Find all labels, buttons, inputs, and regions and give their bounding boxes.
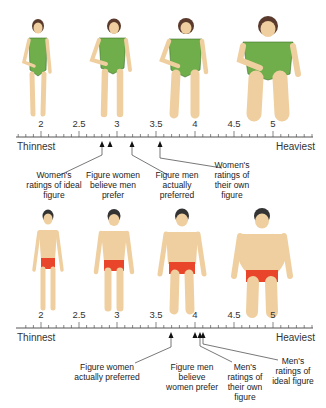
tick-label: 3 — [114, 309, 119, 320]
man-figure-2 — [96, 209, 132, 308]
woman-figure-4 — [240, 16, 298, 114]
women-panel: 2 2.5 3 3.5 4 4.5 5 Thinnest Heaviest Wo… — [0, 0, 326, 200]
man-figure-1 — [34, 210, 62, 309]
tick-label: 4 — [192, 118, 197, 129]
tick-label: 3.5 — [149, 309, 162, 320]
men-scale-axis — [16, 322, 313, 328]
annotation-label: Women's ratings of ideal figure — [24, 170, 84, 200]
tick-label: 4.5 — [227, 118, 240, 129]
tick-label: 3.5 — [149, 118, 162, 129]
tick-label: 5 — [270, 309, 275, 320]
tick-label: 2 — [38, 309, 43, 320]
tick-label: 2.5 — [72, 118, 85, 129]
tick-label: 5 — [270, 118, 275, 129]
tick-label: 4.5 — [227, 309, 240, 320]
tick-label: 2 — [38, 118, 43, 129]
heaviest-label: Heaviest — [276, 332, 315, 343]
woman-figure-1 — [24, 19, 50, 114]
annotation-label: Figure men actually preferred — [152, 170, 202, 200]
tick-label: 4 — [192, 309, 197, 320]
heaviest-label: Heaviest — [276, 141, 315, 152]
annotation-label: Figure men believe women prefer — [164, 362, 220, 392]
man-figure-4 — [234, 208, 290, 312]
thinnest-label: Thinnest — [17, 332, 55, 343]
woman-figure-3 — [162, 18, 206, 114]
tick-label: 2.5 — [72, 309, 85, 320]
annotation-label: Figure women believe men prefer — [84, 170, 142, 200]
annotation-label: Women's ratings of their own figure — [206, 160, 258, 200]
thinnest-label: Thinnest — [17, 141, 55, 152]
men-panel: 2 2.5 3 3.5 4 4.5 5 Thinnest Heaviest Fi… — [0, 200, 326, 408]
men-annotation-arrows — [135, 332, 278, 363]
tick-label: 3 — [114, 118, 119, 129]
women-scale-axis — [16, 131, 313, 137]
woman-figure-2 — [92, 19, 130, 115]
annotation-label: Men's ratings of their own figure — [225, 362, 265, 402]
annotation-label: Men's ratings of ideal figure — [270, 356, 316, 386]
man-figure-3 — [160, 209, 204, 311]
annotation-label: Figure women actually preferred — [72, 362, 142, 382]
